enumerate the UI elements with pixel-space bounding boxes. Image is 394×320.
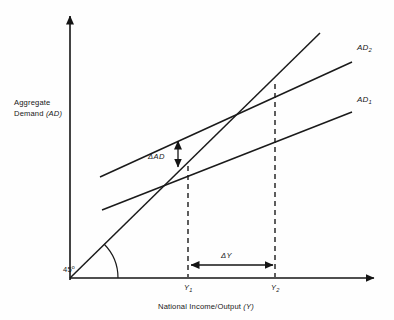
x-axis-label: National Income/Output (Y) (158, 302, 254, 311)
ad1-label-subscript: 1 (369, 99, 372, 105)
angle-arc-group: 45o (63, 244, 118, 278)
aggregate-demand-diagram: 45o ΔAD ΔY AD2 AD1 Y1 (0, 0, 394, 320)
ad2-curve (100, 62, 352, 177)
axes-group (70, 16, 374, 280)
guides-group (188, 84, 275, 277)
y-axis-label-abbrev: (AD) (46, 109, 63, 118)
x-axis-label-abbrev: (Y) (243, 302, 254, 311)
angle-label: 45o (63, 264, 75, 274)
y-axis-label-demand: Demand (14, 109, 46, 118)
axis-titles-group: Aggregate Demand (AD) National Income/Ou… (14, 98, 254, 311)
delta-y-label: ΔY (220, 251, 232, 260)
forty-five-degree-line (70, 33, 320, 278)
angle-label-value: 45 (63, 265, 72, 274)
y2-tick-label: Y2 (271, 283, 280, 293)
angle-label-degree-symbol: o (72, 264, 75, 270)
delta-ad-annotation: ΔAD (147, 141, 178, 167)
ad1-curve (102, 112, 352, 210)
ad2-label: AD2 (356, 43, 373, 53)
x-axis-label-main: National Income/Output (158, 302, 243, 311)
ad1-label-value: AD (356, 95, 369, 104)
y-axis-label-line2: Demand (AD) (14, 109, 62, 118)
ad1-label: AD1 (356, 95, 372, 105)
forty-five-degree-arc (104, 244, 118, 278)
y1-tick-label: Y1 (184, 283, 192, 293)
curves-group (70, 33, 352, 278)
tick-labels-group: Y1 Y2 (184, 283, 280, 293)
curve-labels-group: AD2 AD1 (356, 43, 373, 105)
ad2-label-subscript: 2 (368, 47, 373, 53)
chart-canvas: 45o ΔAD ΔY AD2 AD1 Y1 (0, 0, 394, 320)
y-axis-label-line1: Aggregate (14, 98, 50, 107)
y2-tick-subscript: 2 (275, 287, 280, 293)
ad2-label-value: AD (356, 43, 369, 52)
delta-y-annotation: ΔY (191, 251, 273, 265)
delta-ad-label: ΔAD (147, 152, 165, 161)
y1-tick-subscript: 1 (189, 287, 192, 293)
